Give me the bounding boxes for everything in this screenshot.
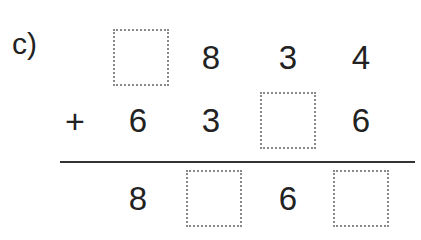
blank-box-result-ones[interactable] — [333, 170, 389, 227]
sum-rule-line — [60, 161, 415, 163]
digit-row2-hundreds: 3 — [191, 103, 231, 139]
digit-row2-ones: 6 — [341, 103, 381, 139]
digit-row1-tens: 3 — [268, 40, 308, 76]
digit-row1-hundreds: 8 — [191, 40, 231, 76]
digit-result-thousands: 8 — [118, 181, 158, 217]
plus-operator: + — [60, 103, 90, 139]
blank-box-row1-thousands[interactable] — [113, 29, 169, 86]
digit-result-tens: 6 — [268, 181, 308, 217]
digit-row1-ones: 4 — [341, 40, 381, 76]
blank-box-row2-tens[interactable] — [260, 92, 316, 149]
blank-box-result-hundreds[interactable] — [186, 170, 242, 227]
digit-row2-thousands: 6 — [118, 103, 158, 139]
exercise-label: c) — [12, 26, 37, 62]
